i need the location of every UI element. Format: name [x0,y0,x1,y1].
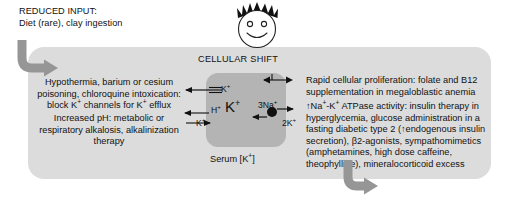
ph-line-3: therapy [12,136,206,148]
k-channel-line-2: poisoning, chloroquine intoxication: [12,89,206,101]
atpase-line-4: secretion), β2-agonists, sympathomimetic… [306,136,514,148]
atpase-line-3: fasting diabetic type 2 (↑endogenous ins… [306,124,514,136]
ph-block: Increased pH: metabolic or respiratory a… [12,113,206,148]
proliferation-line-2: supplementation in megaloblastic anemia [306,87,512,99]
smiley-face-svg [228,2,286,54]
reduced-input-heading: REDUCED INPUT: Diet (rare), clay ingesti… [19,6,234,29]
pump-potassium-label: 2K+ [282,118,296,128]
proliferation-block: Rapid cellular proliferation: folate and… [306,75,512,98]
k-efflux-label: K+ [221,84,230,94]
atpase-line-1: ↑Na+-K+ ATPase activity: insulin therapy… [306,101,514,113]
k-channel-line-1: Hypothermia, barium or cesium [12,77,206,89]
ph-line-2: respiratory alkalosis, alkalinization [12,125,206,137]
serum-potassium-label: Serum [K+] [210,152,255,164]
ph-line-1: Increased pH: metabolic or [12,113,206,125]
cellular-shift-label: CELLULAR SHIFT [198,54,278,64]
atpase-line-5: (amphetamines, high dose caffeine, [306,147,514,159]
cell-interior-potassium-label: K+ [225,98,240,115]
atpase-block: ↑Na+-K+ ATPase activity: insulin therapy… [306,101,514,171]
pump-sodium-label: 3Na+ [258,100,277,110]
k-channel-line-3: block K+ channels for K+ efflux [12,100,206,112]
head-outline [239,11,276,48]
potassium-cellular-shift-diagram: REDUCED INPUT: Diet (rare), clay ingesti… [0,0,515,201]
smiley-face-icon [228,2,286,54]
k-influx-label: K+ [196,118,205,128]
h-exchange-label: H+ [211,105,221,115]
left-eye-icon [247,21,252,26]
k-channel-block: Hypothermia, barium or cesium poisoning,… [12,77,206,112]
right-eye-icon [261,21,266,26]
atpase-line-6: theophylline), mineralocorticoid excess [306,159,514,171]
reduced-input-line-2: Diet (rare), clay ingestion [19,18,234,30]
atpase-line-2: hyperglycemia, glucose administration in… [306,113,514,125]
proliferation-line-1: Rapid cellular proliferation: folate and… [306,75,512,87]
reduced-input-line-1: REDUCED INPUT: [19,6,234,18]
